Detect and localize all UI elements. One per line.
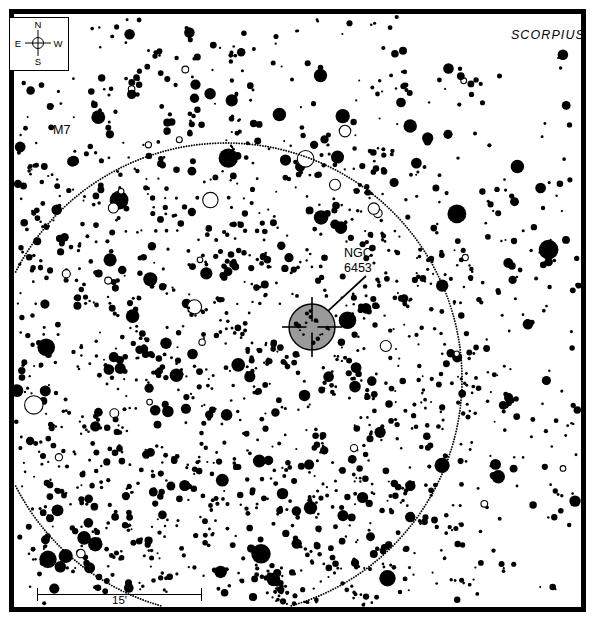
star-marker: [271, 522, 275, 526]
star-marker: [424, 280, 426, 282]
star-marker: [179, 371, 182, 374]
star-marker: [17, 302, 19, 304]
m7-boundary-dot: [217, 142, 219, 144]
star-marker: [189, 263, 196, 270]
star-marker: [539, 240, 559, 260]
star-marker: [59, 195, 61, 197]
star-marker: [439, 372, 444, 377]
star-marker: [570, 330, 573, 333]
star-marker: [73, 116, 75, 118]
star-marker: [41, 225, 44, 228]
m7-boundary-dot: [410, 525, 412, 527]
star-marker: [215, 451, 218, 454]
m7-boundary-dot: [348, 579, 350, 581]
star-marker: [575, 453, 578, 456]
star-marker: [286, 234, 288, 236]
star-marker: [375, 92, 380, 97]
star-marker: [380, 439, 383, 442]
star-marker: [387, 249, 390, 252]
star-marker: [244, 155, 249, 160]
star-marker: [275, 43, 277, 45]
star-marker: [348, 397, 351, 400]
star-marker: [186, 463, 189, 466]
m7-boundary-dot: [308, 599, 310, 601]
star-marker: [388, 494, 392, 498]
star-marker: [77, 549, 85, 557]
star-marker: [423, 398, 427, 402]
star-marker: [231, 131, 233, 133]
star-marker: [66, 566, 69, 569]
m7-boundary-dot: [461, 394, 463, 396]
star-marker: [228, 251, 235, 258]
star-marker: [74, 294, 81, 301]
star-marker: [57, 333, 60, 336]
m7-boundary-dot: [449, 305, 451, 307]
star-marker: [291, 524, 295, 528]
star-marker: [395, 15, 399, 19]
star-marker: [417, 343, 419, 345]
star-marker: [477, 487, 480, 490]
star-marker: [457, 376, 459, 378]
star-marker: [236, 410, 240, 414]
star-marker: [341, 360, 343, 362]
m7-boundary-dot: [453, 438, 455, 440]
m7-boundary-dot: [42, 527, 44, 529]
star-marker: [352, 303, 354, 305]
star-marker: [332, 197, 335, 200]
star-marker: [421, 392, 424, 395]
star-marker: [94, 340, 98, 344]
star-marker: [251, 162, 254, 165]
star-marker: [400, 447, 402, 449]
m7-boundary-dot: [199, 144, 201, 146]
star-marker: [443, 360, 450, 367]
m7-boundary-dot: [123, 165, 125, 167]
star-marker: [29, 375, 31, 377]
m7-boundary-dot: [178, 147, 180, 149]
star-marker: [29, 173, 32, 176]
star-marker: [85, 502, 88, 505]
m7-boundary-dot: [460, 357, 462, 359]
m7-boundary-dot: [449, 303, 451, 305]
star-marker: [80, 525, 82, 527]
star-marker: [76, 365, 79, 368]
star-marker: [94, 303, 99, 308]
star-marker: [486, 399, 490, 403]
star-marker: [285, 508, 288, 511]
star-marker: [239, 579, 242, 582]
star-marker: [227, 584, 231, 588]
star-marker: [356, 465, 362, 471]
star-marker: [19, 292, 21, 294]
star-marker: [237, 492, 243, 498]
star-marker: [472, 578, 474, 580]
star-marker: [45, 436, 51, 442]
star-marker: [281, 467, 283, 469]
star-marker: [29, 585, 32, 588]
star-marker: [88, 144, 93, 149]
star-marker: [150, 405, 161, 416]
star-marker: [423, 432, 431, 440]
m7-boundary-dot: [22, 499, 24, 501]
star-marker: [180, 547, 182, 549]
m7-boundary-dot: [422, 508, 424, 510]
m7-boundary-dot: [374, 561, 376, 563]
star-marker: [411, 413, 416, 418]
star-marker: [304, 460, 314, 470]
m7-boundary-dot: [461, 367, 463, 369]
m7-boundary-dot: [20, 495, 22, 497]
star-marker: [319, 264, 323, 268]
star-marker: [443, 454, 448, 459]
star-marker: [23, 462, 25, 464]
m7-boundary-dot: [20, 262, 22, 264]
star-marker: [343, 357, 345, 359]
star-marker: [154, 421, 162, 429]
m7-boundary-dot: [374, 195, 376, 197]
star-marker: [479, 188, 485, 194]
star-marker: [210, 91, 214, 95]
star-marker: [177, 389, 180, 392]
star-marker: [570, 422, 573, 425]
star-marker: [21, 81, 26, 86]
m7-boundary-dot: [430, 262, 432, 264]
star-marker: [271, 446, 273, 448]
m7-boundary-dot: [425, 252, 427, 254]
star-marker: [325, 494, 329, 498]
